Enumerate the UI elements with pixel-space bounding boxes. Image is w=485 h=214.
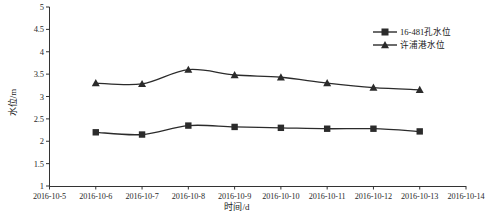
y-tick-label: 1.5 xyxy=(8,159,44,169)
data-point-square-marker xyxy=(278,125,284,131)
data-point-square-marker xyxy=(93,129,99,135)
y-axis-title: 水位/m xyxy=(6,73,19,133)
data-point-square-marker xyxy=(417,128,423,134)
data-point-square-marker xyxy=(231,124,237,130)
series-1 xyxy=(93,122,423,137)
legend-marker-triangle-icon xyxy=(372,40,398,50)
data-point-square-marker xyxy=(370,126,376,132)
legend-item-xupu-port: 许浦港水位 xyxy=(372,40,451,50)
chart-legend: 16-481孔水位 许浦港水位 xyxy=(372,27,451,50)
legend-item-hole-16-481: 16-481孔水位 xyxy=(372,27,451,37)
y-tick-label: 2 xyxy=(8,136,44,146)
legend-label: 许浦港水位 xyxy=(400,40,445,50)
y-tick-label: 4 xyxy=(8,47,44,57)
data-point-square-marker xyxy=(139,131,145,137)
series-2 xyxy=(92,66,424,93)
legend-label: 16-481孔水位 xyxy=(400,27,451,37)
data-point-square-marker xyxy=(324,126,330,132)
y-tick-label: 4.5 xyxy=(8,24,44,34)
legend-marker-square-icon xyxy=(372,27,398,37)
y-tick-marks xyxy=(46,7,50,186)
y-tick-label: 1 xyxy=(8,181,44,191)
data-series-layer xyxy=(92,66,424,138)
y-tick-label: 5 xyxy=(8,2,44,12)
data-point-square-marker xyxy=(185,122,191,128)
x-axis-title: 时间/d xyxy=(0,200,474,213)
